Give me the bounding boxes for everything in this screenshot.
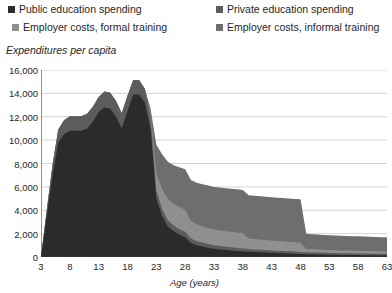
y-tick-label: 2,000 (2, 228, 38, 239)
y-tick-label: 8,000 (2, 158, 38, 169)
x-tick-label: 43 (266, 261, 277, 272)
legend-label-private-education: Private education spending (227, 3, 354, 15)
legend-item-private-education: Private education spending (216, 3, 354, 15)
chart-legend: Public education spending Private educat… (0, 0, 389, 42)
x-tick-label: 48 (295, 261, 306, 272)
y-tick-label: 6,000 (2, 181, 38, 192)
y-tick-label: 14,000 (2, 88, 38, 99)
x-tick-label: 18 (122, 261, 133, 272)
x-tick-label: 58 (353, 261, 364, 272)
x-axis-title: Age (years) (0, 277, 389, 288)
y-axis-tick-labels: 16,00014,00012,00010,0008,0006,0004,0002… (0, 0, 38, 293)
legend-swatch-private-education (216, 6, 223, 13)
x-tick-label: 8 (67, 261, 72, 272)
legend-label-employer-formal: Employer costs, formal training (23, 21, 167, 33)
x-tick-label: 63 (382, 261, 392, 272)
x-tick-label: 38 (238, 261, 249, 272)
x-tick-label: 23 (151, 261, 162, 272)
x-tick-label: 13 (93, 261, 104, 272)
x-tick-label: 28 (180, 261, 191, 272)
legend-swatch-employer-informal (216, 24, 223, 31)
y-tick-label: 12,000 (2, 111, 38, 122)
x-tick-label: 3 (38, 261, 43, 272)
x-axis-tick-labels: 381318232833384348535863 (0, 261, 389, 275)
legend-item-employer-informal: Employer costs, informal training (216, 21, 379, 33)
y-tick-label: 10,000 (2, 135, 38, 146)
x-tick-label: 33 (209, 261, 220, 272)
y-tick-label: 16,000 (2, 65, 38, 76)
legend-label-employer-informal: Employer costs, informal training (227, 21, 379, 33)
stacked-area-chart (41, 70, 387, 257)
y-tick-label: 4,000 (2, 205, 38, 216)
plot-area (41, 70, 387, 257)
x-tick-label: 53 (324, 261, 335, 272)
